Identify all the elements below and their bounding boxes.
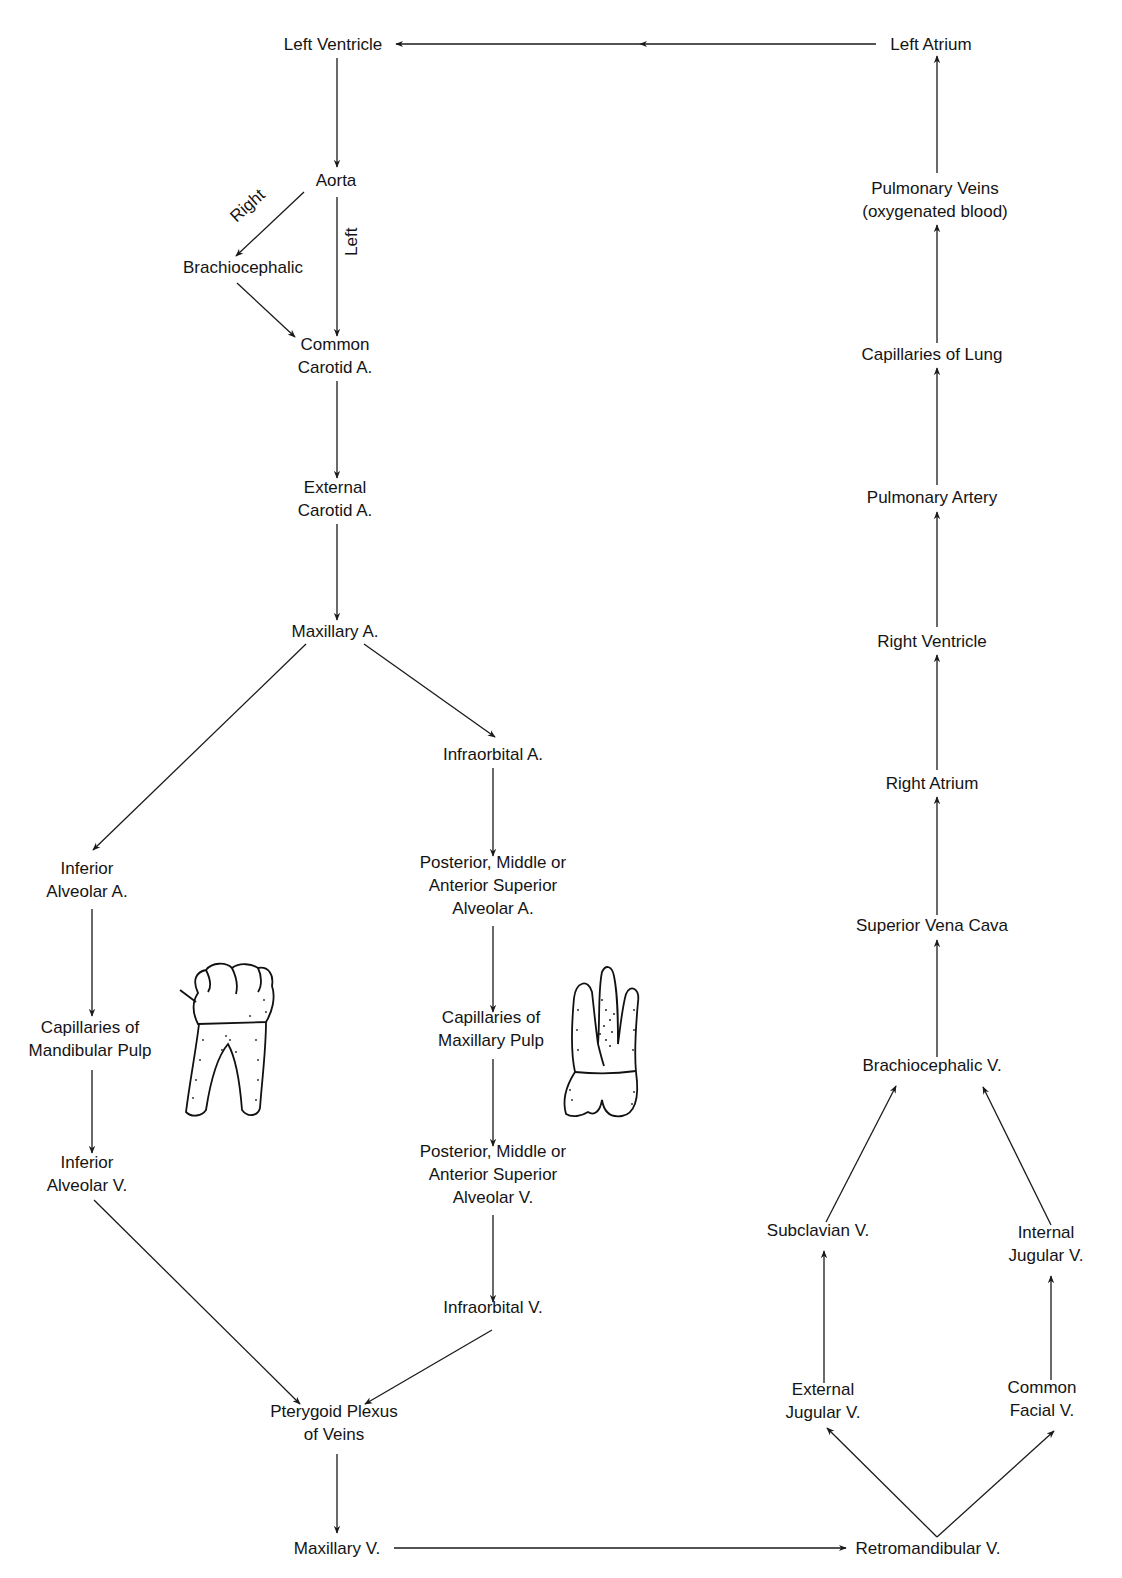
node-external-jugular-v: ExternalJugular V.	[786, 1378, 861, 1424]
edge-label-left: Left	[342, 228, 362, 256]
node-common-facial-v: CommonFacial V.	[1008, 1376, 1077, 1422]
node-pulmonary-veins: Pulmonary Veins(oxygenated blood)	[862, 177, 1008, 223]
node-inferior-alveolar-a: InferiorAlveolar A.	[46, 857, 127, 903]
node-maxillary-v: Maxillary V.	[294, 1537, 380, 1560]
node-maxillary-a: Maxillary A.	[292, 620, 379, 643]
edge-internal-jugular-to-brachiocephalic-v	[983, 1087, 1051, 1225]
node-infraorbital-v: Infraorbital V.	[443, 1296, 543, 1319]
edge-infraorbital-v-to-pterygoid	[365, 1330, 492, 1404]
node-cap-mandibular: Capillaries ofMandibular Pulp	[29, 1016, 152, 1062]
edge-maxillary-a-to-infraorbital-a	[364, 644, 495, 737]
node-psa-a: Posterior, Middle orAnterior SuperiorAlv…	[420, 851, 566, 920]
node-common-carotid: CommonCarotid A.	[298, 333, 373, 379]
edge-brachiocephalic-to-common-carotid	[237, 283, 295, 337]
node-right-atrium: Right Atrium	[886, 772, 979, 795]
node-cap-maxillary: Capillaries ofMaxillary Pulp	[438, 1006, 544, 1052]
node-infraorbital-a: Infraorbital A.	[443, 743, 543, 766]
node-right-ventricle: Right Ventricle	[877, 630, 987, 653]
node-pterygoid-plexus: Pterygoid Plexusof Veins	[270, 1400, 398, 1446]
node-psa-v: Posterior, Middle orAnterior SuperiorAlv…	[420, 1140, 566, 1209]
mandibular-molar-illustration	[180, 964, 274, 1116]
node-subclavian-v: Subclavian V.	[767, 1219, 869, 1242]
edge-subclavian-to-brachiocephalic-v	[826, 1086, 896, 1222]
node-pulmonary-artery: Pulmonary Artery	[867, 486, 997, 509]
maxillary-molar-illustration	[564, 967, 638, 1116]
node-external-carotid: ExternalCarotid A.	[298, 476, 373, 522]
node-inferior-alveolar-v: InferiorAlveolar V.	[47, 1151, 128, 1197]
node-brachiocephalic-v: Brachiocephalic V.	[862, 1054, 1001, 1077]
node-aorta: Aorta	[316, 169, 357, 192]
edge-retromandibular-to-common-facial	[937, 1431, 1054, 1537]
edge-inferior-alveolar-v-to-pterygoid	[94, 1200, 300, 1404]
node-capillaries-lung: Capillaries of Lung	[862, 343, 1003, 366]
edge-maxillary-a-to-inferior-alveolar-a	[93, 644, 306, 850]
node-internal-jugular-v: InternalJugular V.	[1009, 1221, 1084, 1267]
node-brachiocephalic: Brachiocephalic	[183, 256, 303, 279]
node-left-ventricle: Left Ventricle	[284, 33, 382, 56]
node-left-atrium: Left Atrium	[890, 33, 971, 56]
node-superior-vena-cava: Superior Vena Cava	[856, 914, 1008, 937]
edge-retromandibular-to-external-jugular	[827, 1428, 937, 1537]
node-retromandibular-v: Retromandibular V.	[856, 1537, 1001, 1560]
